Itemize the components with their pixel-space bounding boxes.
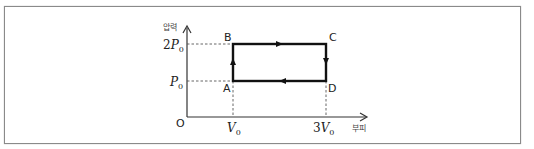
point-label-b: B [224,31,232,44]
pv-diagram: B C A D 압력 부피 O 2P0 P0 V0 3V0 [0,0,534,149]
axes [183,26,367,121]
x-tick-3v0: 3V0 [313,121,334,137]
cycle-path [233,44,326,81]
y-tick-p0: P0 [169,75,183,91]
y-axis-label: 압력 [163,22,177,32]
arrow-right-icon [276,41,283,47]
y-tick-2p0: 2P0 [163,38,184,54]
point-label-d: D [328,82,336,95]
cycle [230,41,329,84]
arrow-down-icon [323,58,329,65]
x-tick-v0: V0 [227,121,241,137]
arrow-up-icon [230,58,236,65]
point-label-a: A [223,82,231,95]
point-label-c: C [329,31,337,44]
x-axis-label: 부피 [352,124,366,133]
arrow-left-icon [279,78,286,84]
origin-label: O [176,117,185,130]
